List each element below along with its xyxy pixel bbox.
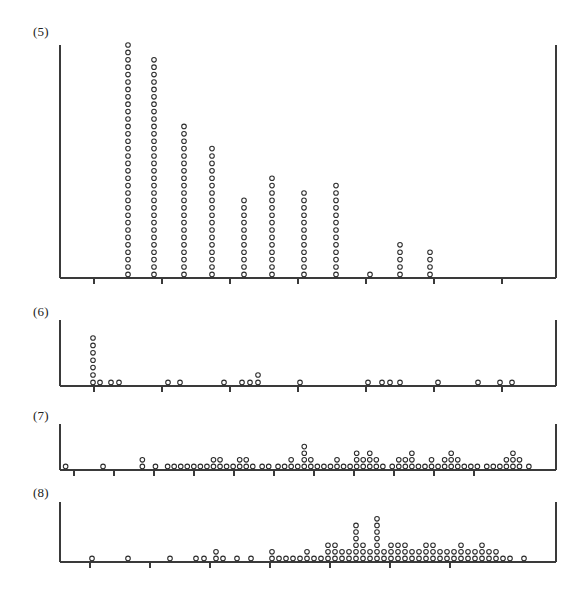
data-point (302, 220, 307, 225)
data-point (91, 380, 96, 385)
data-point (248, 380, 253, 385)
data-point (210, 154, 215, 159)
data-point (354, 556, 359, 561)
data-point (210, 198, 215, 203)
data-point (126, 132, 131, 137)
panel-6-svg (0, 300, 562, 410)
data-point (126, 95, 131, 100)
data-point (410, 464, 415, 469)
data-point (498, 380, 503, 385)
data-point (305, 550, 310, 555)
data-point (242, 220, 247, 225)
data-point (334, 191, 339, 196)
data-point (182, 132, 187, 137)
data-point (152, 95, 157, 100)
data-point (334, 213, 339, 218)
data-point (511, 451, 516, 456)
data-point (178, 380, 183, 385)
data-point (182, 124, 187, 129)
data-point (452, 550, 457, 555)
data-point (361, 458, 366, 463)
data-point (218, 464, 223, 469)
data-point (302, 250, 307, 255)
data-point (398, 257, 403, 262)
data-point (423, 464, 428, 469)
data-point (126, 272, 131, 277)
data-point (126, 109, 131, 114)
data-point (270, 198, 275, 203)
data-point (459, 550, 464, 555)
data-point (361, 464, 366, 469)
data-point (270, 250, 275, 255)
data-point (284, 556, 289, 561)
data-point (289, 464, 294, 469)
data-point (319, 556, 324, 561)
data-point (117, 380, 122, 385)
data-point (431, 543, 436, 548)
data-point (126, 191, 131, 196)
data-point (242, 235, 247, 240)
data-point (126, 117, 131, 122)
data-point (91, 336, 96, 341)
data-point (398, 243, 403, 248)
data-point (428, 272, 433, 277)
data-point (126, 139, 131, 144)
data-point (91, 358, 96, 363)
data-point (210, 183, 215, 188)
data-point (375, 530, 380, 535)
data-point (270, 176, 275, 181)
data-point (436, 464, 441, 469)
data-point (375, 556, 380, 561)
data-point (152, 65, 157, 70)
data-point (210, 220, 215, 225)
data-point (126, 220, 131, 225)
data-point (166, 380, 171, 385)
data-point (417, 550, 422, 555)
data-point (382, 550, 387, 555)
data-point (152, 250, 157, 255)
data-point (182, 161, 187, 166)
data-point (480, 556, 485, 561)
data-point (91, 373, 96, 378)
data-point (126, 50, 131, 55)
data-point (210, 146, 215, 151)
data-point (354, 464, 359, 469)
data-point (302, 228, 307, 233)
data-point (126, 257, 131, 262)
data-point (210, 191, 215, 196)
data-point (140, 458, 145, 463)
data-point (270, 265, 275, 270)
data-point (368, 550, 373, 555)
data-point (302, 257, 307, 262)
data-point (302, 191, 307, 196)
data-point (295, 464, 300, 469)
data-point (182, 250, 187, 255)
data-point (242, 206, 247, 211)
data-point (302, 272, 307, 277)
data-point (218, 458, 223, 463)
data-point (354, 530, 359, 535)
data-point (152, 265, 157, 270)
data-point (368, 272, 373, 277)
data-point (210, 272, 215, 277)
data-point (326, 550, 331, 555)
data-point (340, 550, 345, 555)
panel-6-axes (0, 300, 562, 410)
data-point (182, 228, 187, 233)
data-point (517, 458, 522, 463)
data-point (389, 543, 394, 548)
data-point (182, 243, 187, 248)
data-point (334, 243, 339, 248)
data-point (334, 250, 339, 255)
data-point (270, 235, 275, 240)
data-point (256, 380, 261, 385)
data-point (445, 550, 450, 555)
data-point (231, 464, 236, 469)
data-point (270, 206, 275, 211)
data-point (240, 380, 245, 385)
data-point (367, 451, 372, 456)
data-point (210, 243, 215, 248)
data-point (334, 220, 339, 225)
panel-8-axes (0, 482, 562, 592)
data-point (416, 464, 421, 469)
